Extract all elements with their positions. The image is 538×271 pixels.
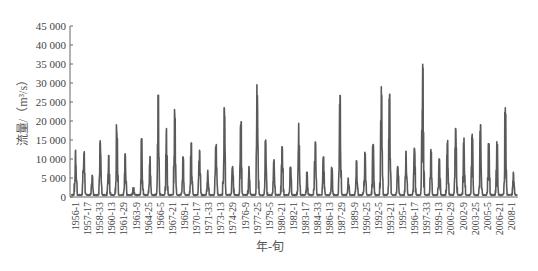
x-tick-label: 1999-13 — [433, 202, 444, 235]
x-tick-label: 1997-33 — [421, 202, 432, 235]
y-tick-label: 20 000 — [36, 115, 67, 127]
x-tick-label: 2003-25 — [470, 202, 481, 235]
x-tick-label: 1979-5 — [264, 202, 275, 230]
flow-series-line — [71, 64, 517, 195]
y-tick-label: 35 000 — [36, 58, 67, 70]
x-tick-label: 1956-1 — [70, 202, 81, 230]
y-axis-title: 流量/（m³/s） — [16, 74, 30, 146]
x-tick-label: 1969-1 — [179, 202, 190, 230]
x-tick-label: 1986-13 — [324, 202, 335, 235]
flow-chart: 05 00010 00015 00020 00025 00030 00035 0… — [0, 0, 538, 271]
x-tick-label: 2008-1 — [506, 202, 517, 230]
y-tick-label: 10 000 — [36, 153, 67, 165]
x-tick-label: 1990-25 — [361, 202, 372, 235]
x-tick-label: 1961-29 — [118, 202, 129, 235]
x-tick-label: 1963-9 — [131, 202, 142, 230]
x-tick-label: 1977-25 — [252, 202, 263, 235]
x-tick-label: 1992-5 — [373, 202, 384, 230]
x-tick-label: 1984-33 — [312, 202, 323, 235]
y-tick-label: 5 000 — [41, 172, 66, 184]
x-tick-label: 1974-29 — [227, 202, 238, 235]
x-tick-label: 1995-1 — [397, 202, 408, 230]
y-tick-label: 25 000 — [36, 96, 67, 108]
x-tick-label: 1983-17 — [300, 202, 311, 235]
x-tick-label: 1989-9 — [349, 202, 360, 230]
plot-area — [71, 64, 517, 195]
y-tick-label: 45 000 — [36, 20, 67, 32]
x-axis-title: 年-旬 — [256, 240, 284, 254]
y-axis: 05 00010 00015 00020 00025 00030 00035 0… — [36, 20, 73, 203]
x-tick-label: 1966-5 — [155, 202, 166, 230]
x-tick-label: 1976-9 — [240, 202, 251, 230]
x-tick-label: 1960-13 — [106, 202, 117, 235]
x-tick-label: 1958-33 — [94, 202, 105, 235]
y-tick-label: 40 000 — [36, 39, 67, 51]
x-tick-label: 2002-9 — [458, 202, 469, 230]
x-tick-label: 1993-21 — [385, 202, 396, 235]
x-tick-label: 2006-21 — [494, 202, 505, 235]
x-tick-label: 1964-25 — [143, 202, 154, 235]
x-tick-label: 2005-5 — [482, 202, 493, 230]
x-tick-label: 1957-17 — [82, 202, 93, 235]
x-tick-label: 1996-17 — [409, 202, 420, 235]
x-tick-label: 1982-1 — [288, 202, 299, 230]
x-axis: 1956-11957-171958-331960-131961-291963-9… — [70, 197, 518, 235]
x-tick-label: 1973-13 — [215, 202, 226, 235]
x-tick-label: 2000-29 — [445, 202, 456, 235]
y-tick-label: 30 000 — [36, 77, 67, 89]
x-tick-label: 1971-33 — [203, 202, 214, 235]
x-tick-label: 1987-29 — [336, 202, 347, 235]
y-tick-label: 15 000 — [36, 134, 67, 146]
y-tick-label: 0 — [61, 191, 67, 203]
x-tick-label: 1980-21 — [276, 202, 287, 235]
x-tick-label: 1967-21 — [167, 202, 178, 235]
x-tick-label: 1970-17 — [191, 202, 202, 235]
